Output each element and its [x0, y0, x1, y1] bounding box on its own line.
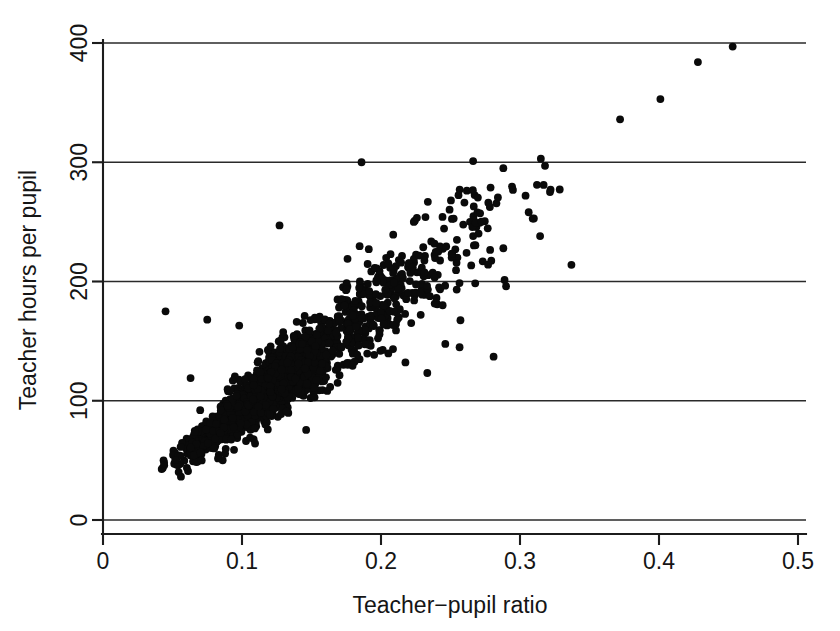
data-point [402, 359, 410, 367]
x-axis-title: Teacher−pupil ratio [353, 592, 548, 618]
data-point [372, 299, 380, 307]
data-point [372, 290, 380, 298]
data-point [295, 360, 303, 368]
x-tick-label-0: 0 [97, 548, 110, 574]
data-point [390, 294, 398, 302]
data-point [262, 401, 270, 409]
data-point [484, 261, 492, 269]
outlier-point-4 [537, 155, 545, 163]
data-point [336, 371, 344, 379]
data-point [457, 316, 465, 324]
data-point [484, 224, 492, 232]
data-point [343, 286, 351, 294]
data-point-layer [158, 43, 737, 481]
data-point [364, 280, 372, 288]
data-point [340, 302, 348, 310]
data-point [254, 357, 262, 365]
outlier-point-12 [422, 213, 430, 221]
data-point [255, 403, 263, 411]
outlier-point-10 [522, 192, 530, 200]
y-tick-label-0: 0 [66, 514, 92, 527]
data-point [191, 428, 199, 436]
data-point [363, 350, 371, 358]
data-point [222, 445, 230, 453]
data-point [455, 191, 463, 199]
data-point [230, 446, 238, 454]
data-point [389, 269, 397, 277]
data-point [424, 198, 432, 206]
data-point [404, 289, 412, 297]
outlier-point-14 [502, 282, 510, 290]
scatter-plot-figure: 0100200300400 00.10.20.30.40.5 Teacher−p… [0, 0, 840, 631]
data-point [463, 249, 471, 257]
data-point [220, 416, 228, 424]
data-point [267, 388, 275, 396]
data-point [290, 332, 298, 340]
data-point [198, 457, 206, 465]
data-point [442, 243, 450, 251]
data-point [318, 360, 326, 368]
data-point [441, 340, 449, 348]
data-point [390, 279, 398, 287]
data-point [484, 199, 492, 207]
data-point [433, 294, 441, 302]
data-point [536, 232, 544, 240]
data-point [334, 379, 342, 387]
data-point [299, 319, 307, 327]
data-point [355, 342, 363, 350]
data-point [325, 320, 333, 328]
y-tick-label-200: 200 [66, 262, 92, 300]
data-point [256, 348, 264, 356]
data-point [556, 186, 564, 194]
data-point [474, 194, 482, 202]
data-point [358, 302, 366, 310]
data-point [453, 259, 461, 267]
data-point [439, 301, 447, 309]
data-point [447, 197, 455, 205]
data-point [509, 186, 517, 194]
data-point [353, 351, 361, 359]
outlier-point-11 [276, 222, 284, 230]
outlier-point-13 [568, 261, 576, 269]
data-point [380, 320, 388, 328]
data-point [459, 221, 467, 229]
x-tick-label-0.2: 0.2 [365, 548, 397, 574]
outlier-point-17 [203, 316, 211, 324]
data-point [226, 387, 234, 395]
data-point [389, 321, 397, 329]
data-point [237, 419, 245, 427]
data-point [389, 231, 397, 239]
data-point [214, 455, 222, 463]
data-point [380, 302, 388, 310]
y-tick-label-300: 300 [66, 143, 92, 181]
data-point [530, 215, 538, 223]
data-point [461, 199, 469, 207]
data-point [441, 282, 449, 290]
data-point [324, 326, 332, 334]
data-point [431, 240, 439, 248]
data-point [229, 414, 237, 422]
data-point [196, 406, 204, 414]
data-point [202, 425, 210, 433]
data-point [452, 266, 460, 274]
data-point [469, 157, 477, 165]
data-point [355, 284, 363, 292]
outlier-point-7 [358, 158, 366, 166]
data-point [384, 259, 392, 267]
data-point [390, 308, 398, 316]
data-point [397, 259, 405, 267]
data-point [335, 317, 343, 325]
data-point [241, 375, 249, 383]
data-point [313, 315, 321, 323]
data-point [417, 311, 425, 319]
data-point [401, 310, 409, 318]
data-point [250, 381, 258, 389]
x-tick-label-0.3: 0.3 [504, 548, 536, 574]
data-point [351, 297, 359, 305]
data-point [349, 312, 357, 320]
data-point [249, 395, 257, 403]
data-point [487, 184, 495, 192]
data-point [232, 392, 240, 400]
data-point [399, 274, 407, 282]
data-point [407, 319, 415, 327]
